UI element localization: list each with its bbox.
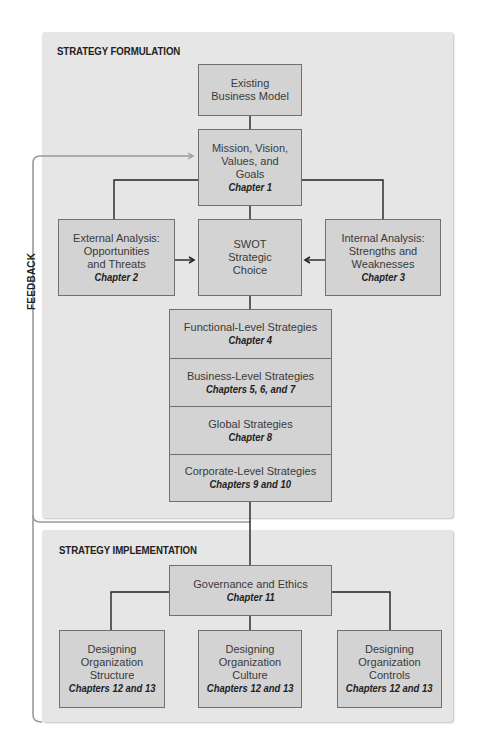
- governance-box: Governance and Ethics Chapter 11: [169, 565, 332, 616]
- organization-controls-box: Designing Organization Controls Chapters…: [337, 630, 442, 708]
- strategies-stack: Functional-Level Strategies Chapter 4 Bu…: [169, 309, 332, 502]
- internal-analysis-chapter: Chapter 3: [361, 271, 405, 284]
- internal-analysis-box: Internal Analysis: Strengths and Weaknes…: [325, 219, 441, 296]
- organization-controls-chapter: Chapters 12 and 13: [346, 682, 433, 695]
- functional-strategies-chapter: Chapter 4: [229, 334, 273, 347]
- external-analysis-label: External Analysis: Opportunities and Thr…: [73, 232, 160, 271]
- existing-business-model-box: Existing Business Model: [198, 64, 302, 116]
- swot-label: SWOT Strategic Choice: [228, 238, 271, 277]
- global-strategies-label: Global Strategies: [208, 418, 292, 431]
- organization-controls-label: Designing Organization Controls: [358, 643, 420, 682]
- business-strategies-chapter: Chapters 5, 6, and 7: [206, 383, 295, 396]
- corporate-strategies-chapter: Chapters 9 and 10: [210, 478, 291, 491]
- business-strategies-cell: Business-Level Strategies Chapters 5, 6,…: [170, 358, 331, 406]
- organization-structure-label: Designing Organization Structure: [81, 643, 143, 682]
- functional-strategies-label: Functional-Level Strategies: [184, 321, 317, 334]
- feedback-label: FEEDBACK: [26, 253, 37, 310]
- corporate-strategies-cell: Corporate-Level Strategies Chapters 9 an…: [170, 454, 331, 501]
- organization-structure-chapter: Chapters 12 and 13: [69, 682, 156, 695]
- external-analysis-box: External Analysis: Opportunities and Thr…: [58, 219, 175, 296]
- organization-structure-box: Designing Organization Structure Chapter…: [59, 630, 165, 708]
- business-strategies-label: Business-Level Strategies: [187, 370, 314, 383]
- mission-label: Mission, Vision, Values, and Goals: [212, 142, 288, 181]
- organization-culture-label: Designing Organization Culture: [219, 643, 281, 682]
- mission-chapter: Chapter 1: [228, 181, 272, 194]
- governance-label: Governance and Ethics: [193, 578, 307, 591]
- existing-business-model-label: Existing Business Model: [211, 77, 289, 103]
- swot-box: SWOT Strategic Choice: [198, 219, 302, 296]
- functional-strategies-cell: Functional-Level Strategies Chapter 4: [170, 310, 331, 358]
- mission-box: Mission, Vision, Values, and Goals Chapt…: [198, 129, 302, 206]
- feedback-line-lower: [33, 515, 42, 722]
- organization-culture-chapter: Chapters 12 and 13: [207, 682, 294, 695]
- external-analysis-chapter: Chapter 2: [95, 271, 139, 284]
- governance-chapter: Chapter 11: [226, 591, 274, 604]
- corporate-strategies-label: Corporate-Level Strategies: [185, 465, 316, 478]
- organization-culture-box: Designing Organization Culture Chapters …: [198, 630, 302, 708]
- global-strategies-cell: Global Strategies Chapter 8: [170, 406, 331, 454]
- internal-analysis-label: Internal Analysis: Strengths and Weaknes…: [341, 232, 424, 271]
- global-strategies-chapter: Chapter 8: [229, 431, 273, 444]
